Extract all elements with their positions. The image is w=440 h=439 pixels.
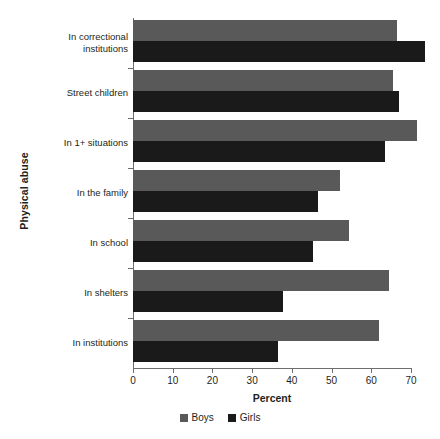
category-label: In school xyxy=(40,237,128,249)
x-axis-tick xyxy=(371,368,372,373)
x-axis-line xyxy=(133,368,412,369)
bar-girls xyxy=(133,141,385,162)
y-axis-tick xyxy=(128,218,133,219)
bar-group xyxy=(133,118,411,168)
y-axis-tick xyxy=(128,268,133,269)
x-axis-tick-label: 60 xyxy=(351,375,391,386)
bar-boys xyxy=(133,270,389,291)
legend-item: Boys xyxy=(180,412,214,423)
y-axis-tick xyxy=(128,318,133,319)
x-axis-tick-label: 50 xyxy=(312,375,352,386)
y-axis-tick xyxy=(128,118,133,119)
bar-group xyxy=(133,18,411,68)
y-axis-tick xyxy=(128,68,133,69)
x-axis-tick xyxy=(411,368,412,373)
y-axis-title: Physical abuse xyxy=(18,121,30,261)
bar-boys xyxy=(133,20,397,41)
category-label-line: institutions xyxy=(40,43,128,55)
x-axis-tick-label: 40 xyxy=(272,375,312,386)
legend-swatch-icon xyxy=(180,414,188,422)
bar-boys xyxy=(133,120,417,141)
legend-swatch-icon xyxy=(228,414,236,422)
bar-group xyxy=(133,268,411,318)
category-label: In correctionalinstitutions xyxy=(40,31,128,55)
x-axis-tick xyxy=(212,368,213,373)
category-label-line: In correctional xyxy=(40,31,128,43)
bar-boys xyxy=(133,320,379,341)
bar-boys xyxy=(133,70,393,91)
x-axis-tick-label: 30 xyxy=(232,375,272,386)
legend-item: Girls xyxy=(228,412,261,423)
legend-label: Girls xyxy=(240,412,261,423)
x-axis-tick xyxy=(292,368,293,373)
x-axis-tick xyxy=(133,368,134,373)
bar-group xyxy=(133,318,411,368)
category-label-line: In the family xyxy=(40,187,128,199)
y-axis-tick xyxy=(128,168,133,169)
x-axis-tick xyxy=(252,368,253,373)
category-label: Street children xyxy=(40,87,128,99)
legend-label: Boys xyxy=(192,412,214,423)
x-axis-tick-label: 0 xyxy=(113,375,153,386)
bar-girls xyxy=(133,191,318,212)
category-label-line: In school xyxy=(40,237,128,249)
bar-chart: Physical abuse In correctionalinstitutio… xyxy=(0,0,440,439)
bar-group xyxy=(133,168,411,218)
category-label-line: In institutions xyxy=(40,337,128,349)
bar-group xyxy=(133,68,411,118)
x-axis-tick-label: 20 xyxy=(192,375,232,386)
category-label: In shelters xyxy=(40,287,128,299)
category-label-line: In shelters xyxy=(40,287,128,299)
bar-girls xyxy=(133,291,283,312)
category-label: In 1+ situations xyxy=(40,137,128,149)
plot-area xyxy=(133,18,411,368)
x-axis-title: Percent xyxy=(133,392,411,404)
category-label: In the family xyxy=(40,187,128,199)
category-label-line: Street children xyxy=(40,87,128,99)
chart-legend: BoysGirls xyxy=(0,412,440,423)
category-label-column: In correctionalinstitutionsStreet childr… xyxy=(40,18,128,368)
bar-boys xyxy=(133,170,340,191)
x-axis-tick xyxy=(332,368,333,373)
category-label-line: In 1+ situations xyxy=(40,137,128,149)
category-label: In institutions xyxy=(40,337,128,349)
bar-group xyxy=(133,218,411,268)
bar-boys xyxy=(133,220,349,241)
bar-girls xyxy=(133,41,425,62)
bar-girls xyxy=(133,241,313,262)
bar-girls xyxy=(133,91,399,112)
x-axis-tick-label: 10 xyxy=(153,375,193,386)
x-axis-tick xyxy=(173,368,174,373)
x-axis-tick-label: 70 xyxy=(391,375,431,386)
bar-girls xyxy=(133,341,278,362)
